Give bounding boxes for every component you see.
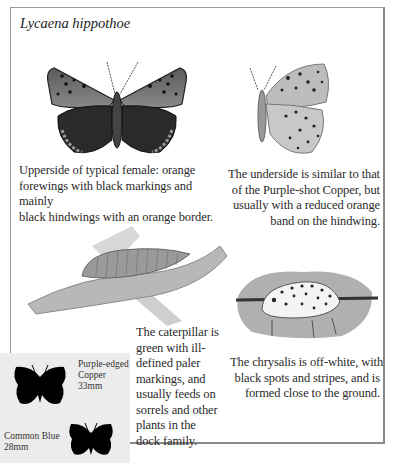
purple-edged-copper-silhouette-icon bbox=[12, 363, 68, 409]
species-title: Lycaena hippothoe bbox=[20, 15, 130, 32]
chrysalis-illustration bbox=[232, 262, 382, 344]
common-blue-label: Common Blue 28mm bbox=[4, 431, 60, 453]
common-blue-silhouette-icon bbox=[67, 421, 115, 459]
upperside-caption: Upperside of typical female: orange fore… bbox=[19, 163, 219, 225]
caterpillar-caption: The caterpillar is green with ill- defin… bbox=[136, 325, 231, 449]
butterfly-upperside-illustration bbox=[44, 60, 189, 160]
purple-edged-copper-label: Purple-edged Copper 33mm bbox=[78, 359, 129, 392]
chrysalis-caption: The chrysalis is off-white, with black s… bbox=[230, 355, 380, 402]
butterfly-underside-illustration bbox=[238, 60, 333, 160]
underside-caption: The underside is similar to that of the … bbox=[200, 167, 380, 229]
caterpillar-illustration bbox=[22, 226, 232, 326]
size-comparison-box: Purple-edged Copper 33mm Common Blue 28m… bbox=[0, 353, 130, 463]
